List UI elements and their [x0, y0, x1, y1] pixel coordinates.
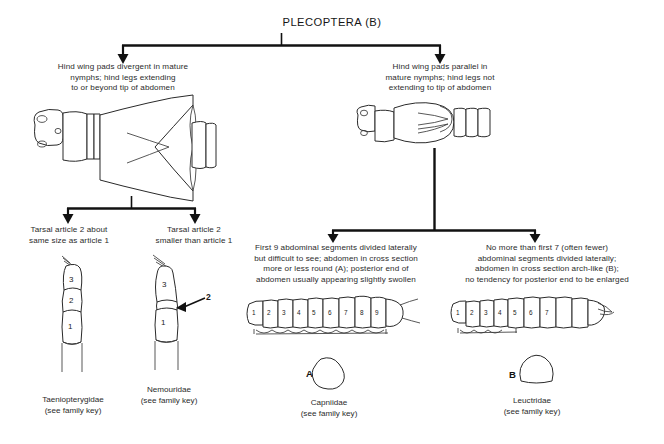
cross-section-b-illustration [0, 0, 664, 444]
leuctridae-family-note: (see family key) [472, 407, 592, 418]
cross-section-b-label: B [509, 369, 516, 380]
cross-section-b-shape [520, 355, 553, 383]
leuctridae-label: Leuctridae (see family key) [472, 396, 592, 417]
key-figure-canvas: PLECOPTERA (B) Hind wing pads divergent … [0, 0, 664, 444]
leuctridae-family-name: Leuctridae [472, 396, 592, 407]
